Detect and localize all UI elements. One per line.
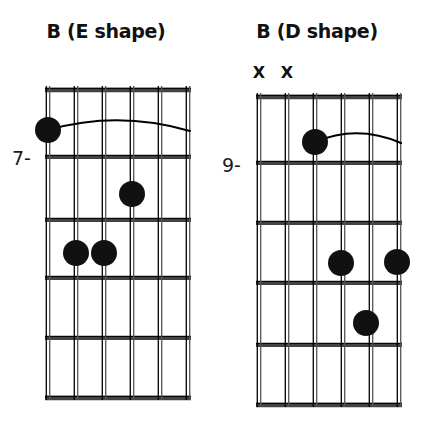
- fretboard-left: [35, 86, 191, 400]
- finger-dot-string-2-fret-3: [63, 240, 89, 266]
- finger-dot-string-4-fret-3: [328, 250, 354, 276]
- finger-dot-string-3-fret-3: [91, 240, 117, 266]
- barre-arc: [48, 120, 190, 131]
- finger-dot-string-5-fret-4: [353, 310, 379, 336]
- fretboard-right: [256, 93, 410, 407]
- finger-dot-string-4-fret-2: [119, 181, 145, 207]
- finger-dot-string-6-fret-3: [384, 249, 410, 275]
- finger-dot-string-1-fret-1: [35, 117, 61, 143]
- finger-dot-string-3-fret-1: [302, 129, 328, 155]
- chord-chart-page: B (E shape) B (D shape) X X 7- 9-: [0, 0, 423, 437]
- fretboard-diagrams: [0, 0, 423, 437]
